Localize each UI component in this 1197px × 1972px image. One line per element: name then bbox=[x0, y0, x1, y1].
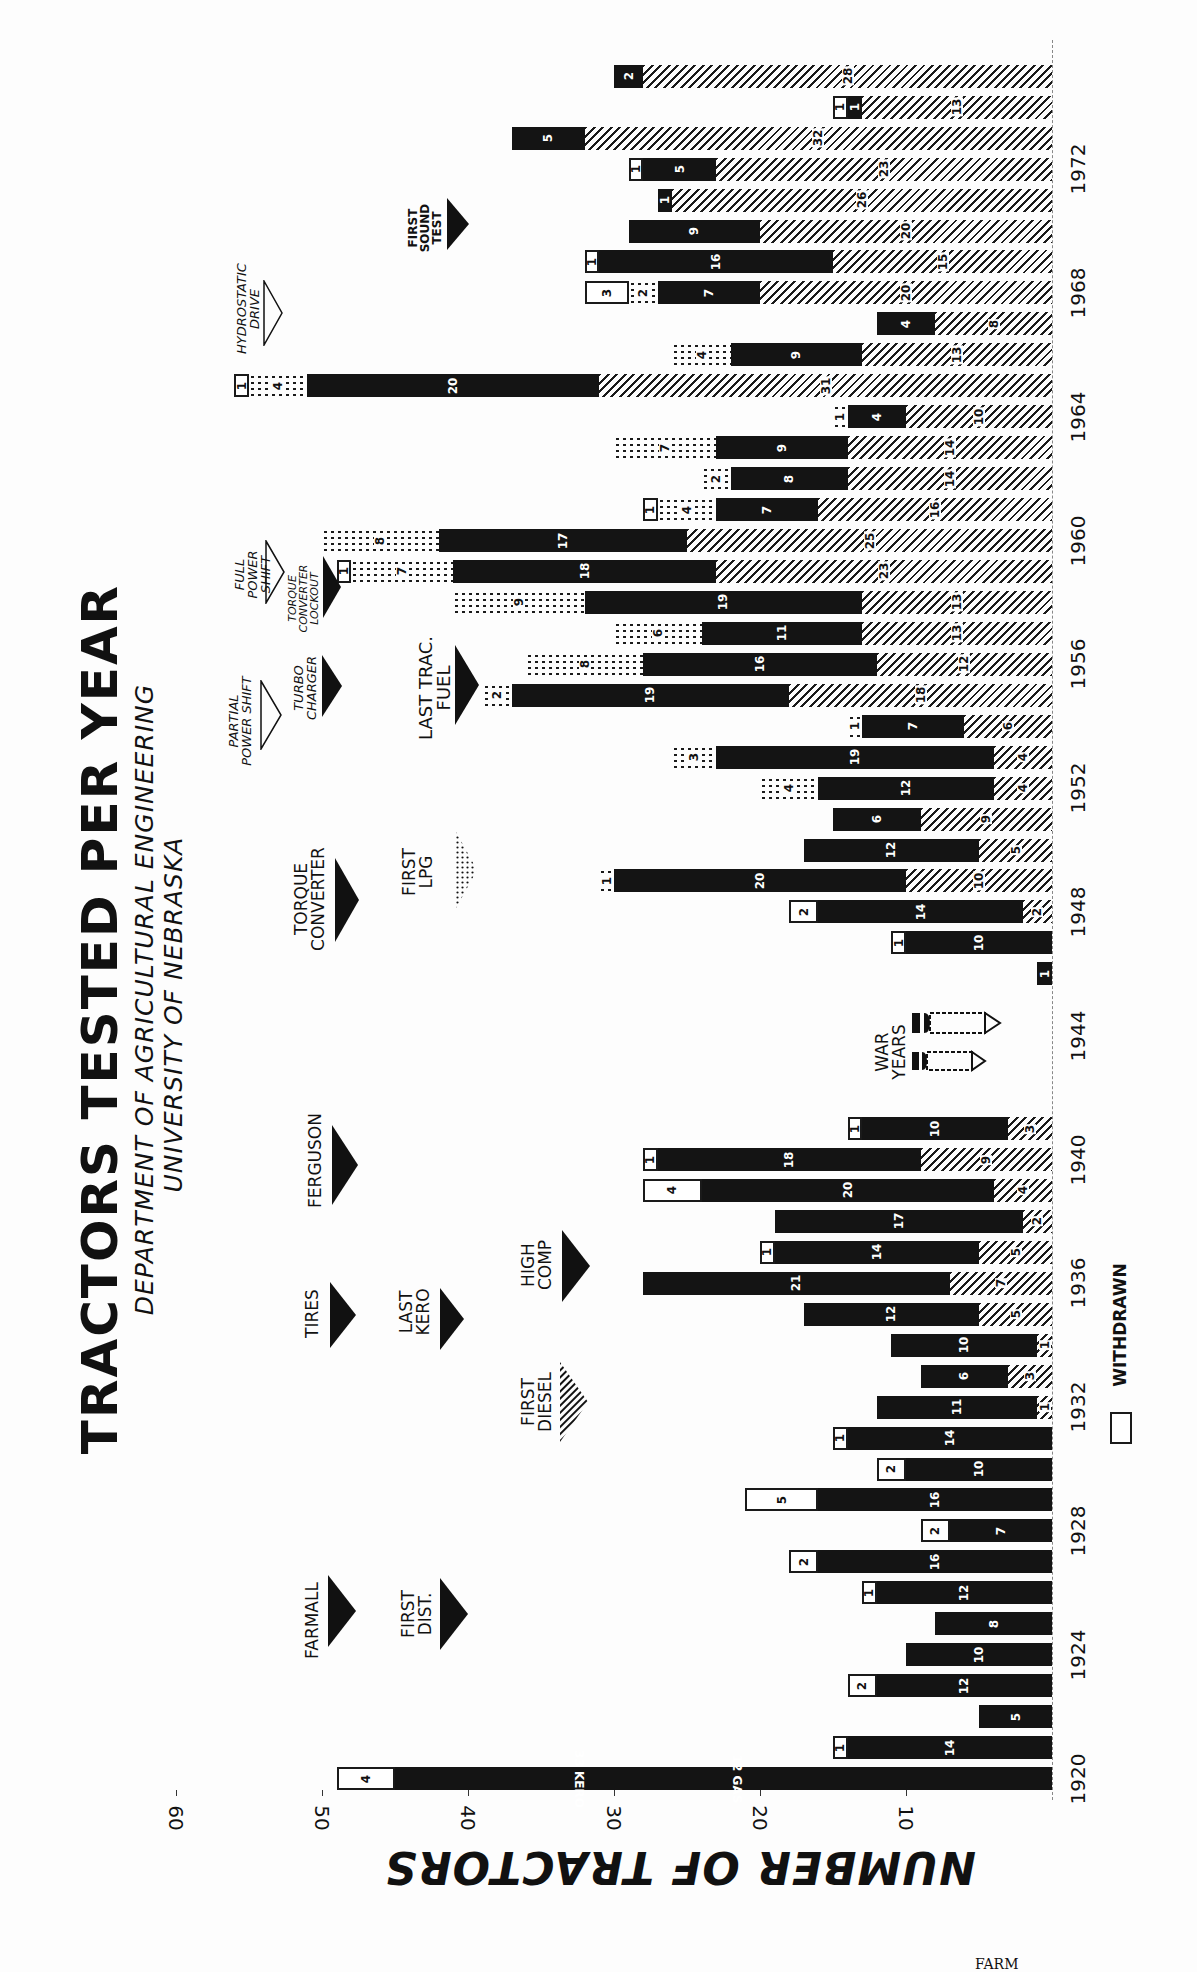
bar-segment-value: 1 bbox=[644, 505, 656, 513]
bar-segment-gas: 12 bbox=[877, 1674, 1052, 1697]
annotation-torque-converter-lockout: TORQUE CONVERTER LOCKOUT bbox=[287, 551, 320, 647]
bar-segment-lpg: 6 bbox=[614, 622, 702, 645]
bar-segment-lpg: 4 bbox=[760, 777, 818, 800]
bar-segment-gas: 1 bbox=[848, 96, 863, 119]
bar-segment-value: 31 bbox=[820, 376, 832, 395]
solid-arrow-icon bbox=[440, 1288, 464, 1350]
bar-segment-gas: 5 bbox=[512, 127, 585, 150]
bar-segment-diesel: 18 bbox=[789, 684, 1052, 707]
bar-segment-diesel: 10 bbox=[906, 405, 1052, 428]
x-tick-year-label: 1920 bbox=[1066, 1751, 1090, 1807]
bar-segment-withdrawn: 1 bbox=[760, 1241, 775, 1264]
bar-segment-gas: 16 bbox=[643, 653, 877, 676]
bar-segment-gas: 7 bbox=[658, 281, 760, 304]
x-tick-year-label: 1964 bbox=[1066, 389, 1090, 445]
bar-segment-lpg: 9 bbox=[453, 591, 584, 614]
solid-arrow-icon bbox=[447, 198, 469, 250]
y-tick-mark bbox=[760, 1790, 761, 1796]
bar-segment-value: 7 bbox=[761, 505, 773, 513]
annotation-tires: TIRES bbox=[304, 1281, 321, 1346]
bar-segment-value: 4 bbox=[871, 413, 883, 421]
bar-segment-diesel: 2 bbox=[1023, 900, 1052, 923]
bar-segment-value: 1 bbox=[834, 1434, 846, 1442]
bar-segment-withdrawn: 1 bbox=[891, 931, 906, 954]
bar-segment-value: 8 bbox=[988, 319, 1000, 329]
bar-segment-gas: 12 bbox=[804, 1303, 979, 1326]
bar-segment-value: 5 bbox=[776, 1496, 788, 1504]
y-tick-mark bbox=[468, 1790, 469, 1796]
bar-segment-value: 3 bbox=[1024, 1123, 1036, 1133]
y-tick-label: 30 bbox=[602, 1804, 626, 1832]
bar-segment-value: 20 bbox=[842, 1182, 854, 1199]
bar-segment-gas: 16 bbox=[818, 1550, 1052, 1573]
annotation-first-lpg: FIRST LPG bbox=[401, 837, 435, 907]
bar-segment-diesel: 20 bbox=[760, 220, 1052, 243]
bar-segment-gas: 18 bbox=[453, 560, 716, 583]
bar-segment-lpg: 1 bbox=[833, 405, 848, 428]
bar-segment-gas: 7 bbox=[862, 715, 964, 738]
bar-segment-value: 3 bbox=[688, 752, 700, 762]
outline-arrow-icon bbox=[263, 280, 283, 346]
bar-segment-value: 17 bbox=[557, 532, 569, 549]
bar-segment-value: 4 bbox=[1017, 783, 1029, 793]
y-tick-mark bbox=[322, 1790, 323, 1796]
bar-segment-gas: 17 bbox=[439, 529, 687, 552]
bar-segment-withdrawn: 2 bbox=[848, 1674, 877, 1697]
bar-segment-diesel: 26 bbox=[672, 189, 1052, 212]
bar-segment-value: 12 bbox=[885, 842, 897, 859]
bar-segment-diesel: 5 bbox=[979, 1303, 1052, 1326]
bar-segment-value: 1 bbox=[849, 1124, 861, 1132]
bar-segment-value: 4 bbox=[783, 783, 795, 793]
annotation-first-sound-test: FIRST SOUND TEST bbox=[407, 198, 443, 258]
bar-segment-value: 9 bbox=[980, 814, 992, 824]
bar-segment-value: 7 bbox=[907, 722, 919, 730]
bar-segment-gas: 10 bbox=[906, 1643, 1052, 1666]
annotation-farmall: FARMALL bbox=[304, 1561, 321, 1681]
bar-segment-value: 12 bbox=[958, 1584, 970, 1601]
bar-segment-diesel: 28 bbox=[643, 65, 1052, 88]
bar-segment-value: 5 bbox=[542, 134, 554, 142]
bar-segment-value: 4 bbox=[272, 381, 284, 391]
outline-arrow-icon bbox=[265, 540, 285, 604]
bar-segment-diesel: 14 bbox=[848, 436, 1052, 459]
bar-segment-value: 16 bbox=[710, 254, 722, 271]
y-tick-mark bbox=[614, 1790, 615, 1796]
bar-segment-gas: 18 bbox=[658, 1148, 921, 1171]
bar-segment-withdrawn: 2 bbox=[921, 1519, 950, 1542]
annotation-war-years: WAR YEARS bbox=[874, 1018, 908, 1086]
bar-segment-value: 2 bbox=[798, 1558, 810, 1566]
x-tick-year-label: 1968 bbox=[1066, 265, 1090, 321]
x-tick-year-label: 1928 bbox=[1066, 1503, 1090, 1559]
bar-segment-value: 1 bbox=[849, 721, 861, 731]
bar-segment-value: 8 bbox=[783, 474, 795, 482]
bar-segment-gas: 19 bbox=[716, 746, 993, 769]
bar-segment-value: 9 bbox=[688, 227, 700, 235]
bar-segment-value: 5 bbox=[1010, 1247, 1022, 1257]
bar-segment-diesel: 23 bbox=[716, 158, 1052, 181]
bar-segment-value: 14 bbox=[944, 438, 956, 457]
bar-segment-value: 1 bbox=[1039, 1340, 1051, 1350]
x-tick-year-label: 1952 bbox=[1066, 760, 1090, 816]
bar-segment-gas: 1 bbox=[1037, 962, 1052, 985]
bar-segment-withdrawn: 4 bbox=[643, 1179, 701, 1202]
bar-segment-lpg: 2 bbox=[702, 467, 731, 490]
bar-segment-value: 1 bbox=[761, 1248, 773, 1256]
bar-segment-withdrawn: 2 bbox=[789, 1550, 818, 1573]
bar-segment-gas: 9 bbox=[731, 343, 862, 366]
hatched-arrow-icon bbox=[560, 1362, 588, 1442]
bar-segment-gas: 7 bbox=[950, 1519, 1052, 1542]
bar-segment-diesel: 16 bbox=[818, 498, 1052, 521]
bar-segment-value: 4 bbox=[1017, 1185, 1029, 1195]
x-tick-year-label: 1936 bbox=[1066, 1255, 1090, 1311]
y-tick-label: 10 bbox=[894, 1804, 918, 1832]
bar-segment-diesel: 5 bbox=[979, 839, 1052, 862]
bar-segment-diesel: 13 bbox=[862, 591, 1052, 614]
bar-segment-withdrawn: 1 bbox=[833, 1427, 848, 1450]
legend-withdrawn-label: WITHDRAWN bbox=[1110, 1255, 1130, 1395]
bar-segment-diesel: 25 bbox=[687, 529, 1052, 552]
bar-segment-lpg: 4 bbox=[249, 374, 307, 397]
bar-segment-value: 2 bbox=[623, 72, 635, 80]
bar-segment-diesel: 4 bbox=[994, 1179, 1052, 1202]
bar-segment-gas: 12 bbox=[818, 777, 993, 800]
bar-segment-value: 17 bbox=[893, 1213, 905, 1230]
